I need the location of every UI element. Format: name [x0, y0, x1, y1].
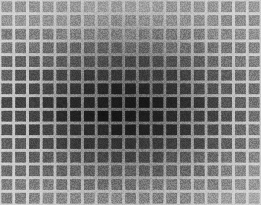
grid-heatmap-canvas — [0, 0, 261, 205]
illusion-image — [0, 0, 261, 205]
